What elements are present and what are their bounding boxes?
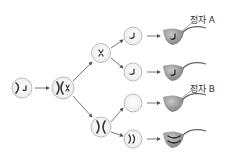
- spermatid-2: [124, 63, 142, 81]
- sperm-b-label: 정자 B: [190, 82, 215, 95]
- arrow: [111, 108, 123, 122]
- sperm-4: [163, 130, 206, 148]
- spermatid-3: [124, 94, 142, 112]
- replicated-cell: [52, 77, 74, 99]
- parent-cell: [12, 78, 32, 98]
- secondary-cell-bottom: [91, 117, 111, 137]
- sperm-a-label: 정자 A: [190, 13, 215, 26]
- arrow: [111, 132, 123, 136]
- arrow: [111, 58, 123, 68]
- arrow: [111, 40, 123, 48]
- sperm-2: [163, 63, 206, 81]
- arrow: [73, 96, 92, 117]
- secondary-cell-top: [92, 44, 111, 63]
- arrow: [73, 62, 92, 81]
- spermatid-4: [124, 130, 142, 148]
- spermatid-1: [124, 27, 142, 45]
